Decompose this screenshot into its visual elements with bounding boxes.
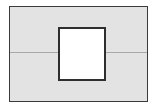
inner-square [58,27,106,81]
outer-rectangle [9,6,148,102]
diagram-canvas [0,0,156,108]
